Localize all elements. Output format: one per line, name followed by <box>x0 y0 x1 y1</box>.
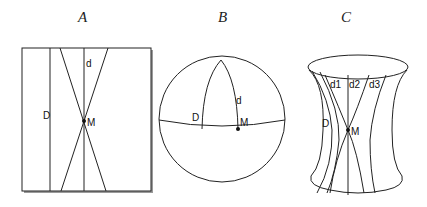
meridian-D <box>202 60 221 129</box>
label-d2: d2 <box>349 79 361 90</box>
label-D: D <box>192 112 199 123</box>
label-d: d <box>236 95 242 106</box>
point-M <box>346 128 350 132</box>
geometry-figure: A D d M B D d M C D d1 d2 <box>0 0 427 207</box>
panel-a: A D d M <box>22 9 153 193</box>
panel-b-title: B <box>218 9 227 25</box>
label-d1: d1 <box>330 79 342 90</box>
label-M: M <box>240 117 248 128</box>
label-d3: d3 <box>369 79 381 90</box>
label-D: D <box>322 118 329 129</box>
panel-c: C D d1 d2 d3 M <box>308 9 408 195</box>
label-M: M <box>351 126 359 137</box>
top-rim <box>308 55 408 79</box>
equator <box>159 120 285 126</box>
point-M <box>82 119 86 123</box>
panel-c-title: C <box>341 9 352 25</box>
label-d: d <box>86 58 92 69</box>
panel-b: B D d M <box>159 9 285 182</box>
ruling-right <box>370 75 386 193</box>
sphere-outline <box>159 56 285 182</box>
panel-a-title: A <box>77 9 88 25</box>
label-D: D <box>43 110 50 121</box>
label-M: M <box>87 117 95 128</box>
